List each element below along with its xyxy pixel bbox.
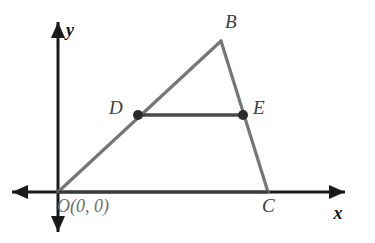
y-axis-label: y <box>64 20 75 40</box>
coordinate-plane-diagram: B D E C O(0, 0) x y <box>0 0 375 243</box>
point-label-B: B <box>225 11 237 32</box>
point-label-E: E <box>252 97 265 118</box>
point-label-C: C <box>262 195 275 216</box>
point-label-D: D <box>108 97 123 118</box>
point-label-origin: O(0, 0) <box>57 196 109 217</box>
geometry-figure-canvas: B D E C O(0, 0) x y <box>0 0 375 243</box>
point-dot-E <box>238 110 248 120</box>
point-dot-D <box>133 110 143 120</box>
x-axis-label: x <box>333 203 343 223</box>
